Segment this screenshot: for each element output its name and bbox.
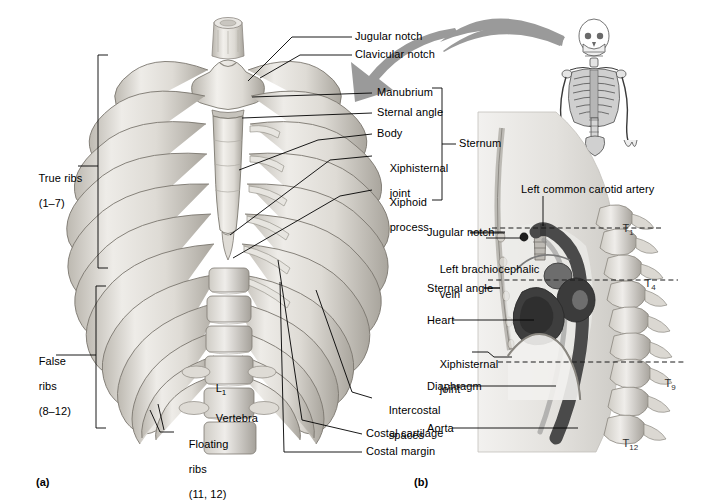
caption-panel-b: (b) [414, 476, 428, 488]
label-xiphisternal-joint-a-line1: Xiphisternal [390, 162, 449, 174]
aorta-shape [536, 229, 583, 438]
label-manubrium: Manubrium [377, 86, 433, 99]
label-xiphoid-process-line1: Xiphoid [390, 196, 427, 208]
label-floating-ribs-line3: (11, 12) [189, 488, 227, 500]
label-vertebra-t4: T4 [632, 264, 656, 307]
anatomy-figure: ​ [0, 0, 720, 502]
sternum-body-shape [213, 116, 243, 234]
label-xiphoid-process: Xiphoid process [377, 183, 429, 246]
label-vertebra-t4-number: 4 [651, 283, 656, 292]
xiphoid-process-shape [222, 232, 234, 260]
label-vertebra-t12: T12 [610, 424, 638, 467]
caption-panel-a: (a) [36, 476, 49, 488]
label-vertebra-t9-number: 9 [671, 383, 676, 392]
left-common-carotid-shape [540, 224, 546, 236]
left-brachiocephalic-vein-shape [520, 233, 529, 242]
label-floating-ribs-line1: Floating [189, 438, 229, 450]
label-l1-vertebra-word: Vertebra [216, 412, 258, 424]
sternal-angle-shape [212, 110, 244, 119]
label-sternal-angle-b: Sternal angle [427, 282, 493, 295]
label-clavicular-notch-a: Clavicular notch [355, 48, 435, 61]
label-xiphisternal-joint-b-line1: Xiphisternal [440, 358, 499, 370]
jugular-notch-shape [220, 63, 236, 67]
label-aorta: Aorta [427, 422, 454, 435]
label-jugular-notch-b: Jugular notch [427, 226, 494, 239]
label-floating-ribs-line2: ribs [189, 463, 207, 475]
label-l1-vertebra: L1 Vertebra [203, 369, 258, 437]
label-left-common-carotid-artery: Left common carotid artery [521, 183, 654, 196]
label-true-ribs: True ribs (1–7) [26, 159, 82, 222]
label-vertebra-t12-number: 12 [629, 443, 638, 452]
label-vertebra-t1: T1 [610, 209, 634, 252]
sternum-group [192, 18, 265, 261]
label-false-ribs-line1: False [39, 355, 66, 367]
label-jugular-notch-a: Jugular notch [355, 30, 422, 43]
label-false-ribs-line3: (8–12) [39, 405, 71, 417]
label-left-brachiocephalic-vein-line1: Left brachiocephalic [440, 263, 540, 275]
label-sternal-angle-a: Sternal angle [377, 106, 443, 119]
sternum-profile [497, 128, 510, 350]
whole-skeleton-thumbnail [556, 19, 637, 156]
label-true-ribs-line2: (1–7) [39, 197, 65, 209]
label-vertebra-t1-number: 1 [629, 228, 634, 237]
label-sternum-bracket: Sternum [459, 137, 501, 150]
label-true-ribs-line1: True ribs [38, 172, 82, 184]
label-xiphisternal-joint-b: Xiphisternal joint [427, 345, 498, 408]
label-vertebra-t9: T9 [652, 364, 676, 407]
costal-cartilage-group [240, 126, 290, 308]
label-false-ribs: False ribs (8–12) [26, 342, 71, 430]
sternum-profile-outline [497, 128, 510, 350]
label-intercostal-spaces-line2: spaces [389, 429, 424, 441]
label-diaphragm: Diaphragm [427, 380, 482, 393]
label-xiphoid-process-line2: process [390, 221, 429, 233]
label-heart: Heart [427, 314, 454, 327]
label-false-ribs-line2: ribs [39, 380, 57, 392]
thoracic-vertebrae-group [596, 205, 672, 444]
manubrium-shape [192, 60, 265, 110]
label-l1-vertebra-subscript: 1 [222, 388, 227, 397]
diaphragm-shape [508, 334, 580, 400]
label-body: Body [377, 127, 402, 140]
